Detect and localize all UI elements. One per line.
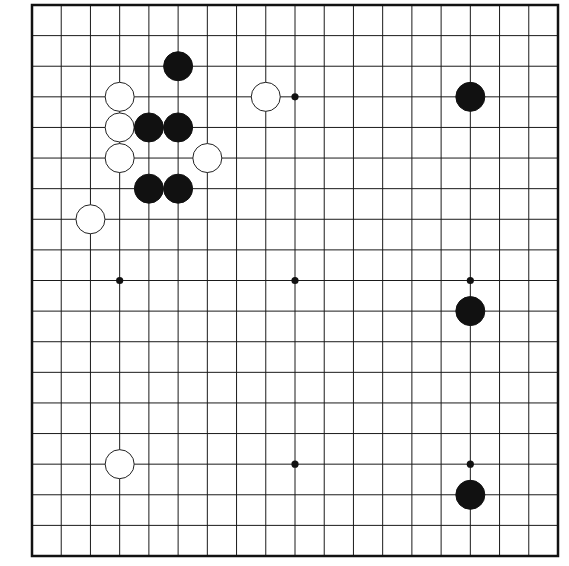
- black-stone-icon: [134, 174, 163, 203]
- black-stone-icon: [456, 297, 485, 326]
- star-point-icon: [467, 461, 474, 468]
- star-point-icon: [467, 277, 474, 284]
- black-stone-icon: [134, 113, 163, 142]
- black-stone-icon: [164, 174, 193, 203]
- black-stone-icon: [164, 113, 193, 142]
- white-stone-icon: [105, 450, 134, 479]
- white-stone-icon: [105, 82, 134, 111]
- white-stone-icon: [105, 113, 134, 142]
- star-point-icon: [291, 93, 298, 100]
- white-stone-icon: [193, 144, 222, 173]
- white-stone-icon: [76, 205, 105, 234]
- white-stone-icon: [105, 144, 134, 173]
- star-point-icon: [116, 277, 123, 284]
- star-point-icon: [291, 277, 298, 284]
- white-stone-icon: [251, 82, 280, 111]
- star-point-icon: [291, 461, 298, 468]
- black-stone-icon: [164, 52, 193, 81]
- black-stone-icon: [456, 480, 485, 509]
- go-board: [0, 0, 569, 566]
- black-stone-icon: [456, 82, 485, 111]
- go-board-diagram: Go board position: [0, 0, 569, 566]
